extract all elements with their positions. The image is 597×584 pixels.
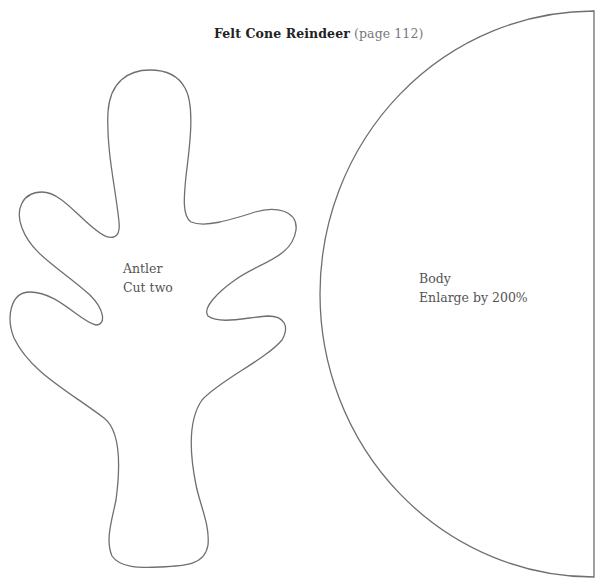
antler-instruction: Cut two (123, 278, 173, 297)
body-instruction: Enlarge by 200% (419, 288, 528, 307)
antler-name: Antler (123, 259, 173, 278)
body-label: Body Enlarge by 200% (419, 269, 528, 307)
antler-label: Antler Cut two (123, 259, 173, 297)
antler-outline (10, 70, 296, 567)
body-name: Body (419, 269, 528, 288)
